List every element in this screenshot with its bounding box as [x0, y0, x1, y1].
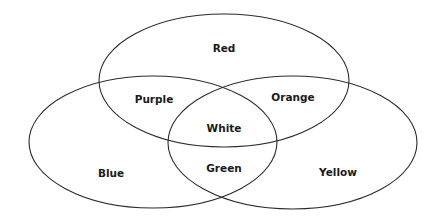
- venn-svg: Red Purple Orange White Green Blue Yello…: [0, 0, 436, 224]
- label-purple: Purple: [135, 93, 174, 105]
- label-green: Green: [206, 162, 242, 174]
- label-orange: Orange: [271, 91, 314, 103]
- label-blue: Blue: [98, 167, 124, 179]
- venn-diagram: Red Purple Orange White Green Blue Yello…: [0, 0, 436, 224]
- label-white: White: [207, 122, 242, 134]
- label-yellow: Yellow: [318, 166, 357, 178]
- label-red: Red: [213, 42, 236, 54]
